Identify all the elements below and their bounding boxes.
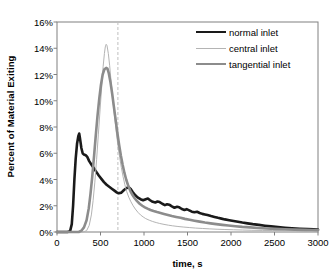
chart-legend: normal inlet central inlet tangential in… [196,24,326,72]
series-line-tangential-inlet [57,68,318,232]
legend-label-tangential-inlet: tangential inlet [226,59,290,70]
legend-item-central-inlet: central inlet [196,40,326,56]
chart-figure: Percent of Material Exiting 0%2%4%6%8%10… [0,0,334,277]
series-line-normal-inlet [57,134,318,232]
legend-label-normal-inlet: normal inlet [226,27,278,38]
legend-swatch-central-inlet [196,48,226,49]
x-axis-title: time, s [57,258,318,269]
legend-swatch-tangential-inlet [196,63,226,66]
legend-swatch-normal-inlet [196,31,226,34]
legend-item-tangential-inlet: tangential inlet [196,56,326,72]
legend-item-normal-inlet: normal inlet [196,24,326,40]
legend-label-central-inlet: central inlet [226,43,278,54]
